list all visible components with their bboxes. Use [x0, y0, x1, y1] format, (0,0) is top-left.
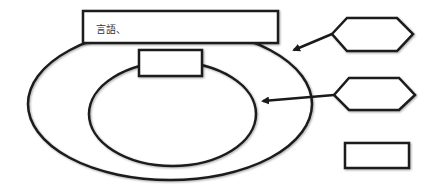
inner-label-box — [139, 50, 202, 76]
bottom-right-box — [345, 143, 409, 168]
top-box-label: 言語、 — [96, 21, 126, 36]
hexagon-2 — [334, 78, 415, 110]
arrow-hexagon1-to-outer-ellipse — [294, 34, 332, 50]
diagram-canvas: 言語、 — [0, 0, 436, 189]
diagram-svg — [0, 0, 436, 189]
inner-ellipse — [89, 62, 256, 166]
hexagon-1 — [332, 18, 413, 51]
arrow-hexagon2-to-inner-ellipse — [263, 95, 334, 101]
